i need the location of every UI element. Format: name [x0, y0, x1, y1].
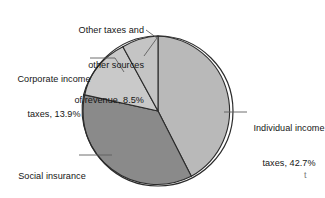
pie-label-individual-income-taxes-line1: Individual income: [244, 123, 325, 135]
pie-label-individual-income-taxes-line2: taxes, 42.7%: [244, 158, 325, 170]
pie-label-corporate-income-taxes: Corporate income taxes, 13.9%: [2, 51, 106, 144]
pie-label-other-taxes-line1: Other taxes and: [26, 25, 144, 37]
pie-label-social-insurance-taxes-line1: Social insurance: [0, 171, 104, 183]
pie-label-individual-income-taxes: Individual income taxes, 42.7%: [244, 100, 325, 193]
pie-label-corporate-income-taxes-line2: taxes, 13.9%: [2, 109, 106, 121]
page-artifact-mark: t: [304, 170, 307, 180]
pie-label-social-insurance-taxes: Social insurance taxes, 35.0%: [0, 148, 104, 198]
pie-chart-figure: Other taxes and other sources of revenue…: [0, 0, 325, 198]
pie-label-corporate-income-taxes-line1: Corporate income: [2, 74, 106, 86]
